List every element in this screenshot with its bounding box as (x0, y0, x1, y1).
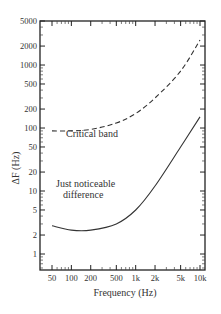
y-tick-label: 5000 (20, 16, 37, 26)
x-tick-label: 1k (131, 273, 140, 283)
annotation-jnd-line1: Just noticeable (56, 178, 116, 189)
y-tick-label: 50 (29, 142, 38, 152)
y-tick-label: 100 (24, 123, 37, 133)
x-tick-label: 5k (176, 273, 185, 283)
annotation-critical-band: Critical band (66, 128, 118, 139)
annotation-jnd-line2: difference (63, 189, 104, 200)
y-axis: 125102050100200500100020005000 (20, 16, 205, 268)
y-tick-label: 20 (29, 167, 38, 177)
plot-frame (40, 21, 205, 270)
x-tick-label: 100 (65, 273, 78, 283)
critical-band-curve (52, 40, 200, 131)
y-axis-label: ΔF (Hz) (10, 152, 22, 185)
x-axis: 501002005001k2k5k10k (48, 21, 207, 283)
x-tick-label: 10k (194, 273, 208, 283)
x-tick-label: 500 (110, 273, 123, 283)
y-tick-label: 5 (33, 205, 37, 215)
x-axis-label: Frequency (Hz) (93, 287, 156, 299)
y-tick-label: 10 (29, 186, 38, 196)
x-tick-label: 200 (84, 273, 97, 283)
plot-border (40, 21, 205, 270)
y-tick-label: 1 (33, 249, 37, 259)
y-tick-label: 1000 (20, 60, 37, 70)
chart: 125102050100200500100020005000 501002005… (0, 0, 221, 314)
y-tick-label: 2000 (20, 41, 37, 51)
x-tick-label: 50 (48, 273, 57, 283)
y-tick-label: 2 (33, 230, 37, 240)
y-tick-label: 500 (24, 79, 37, 89)
x-tick-label: 2k (151, 273, 160, 283)
y-tick-label: 200 (24, 104, 37, 114)
